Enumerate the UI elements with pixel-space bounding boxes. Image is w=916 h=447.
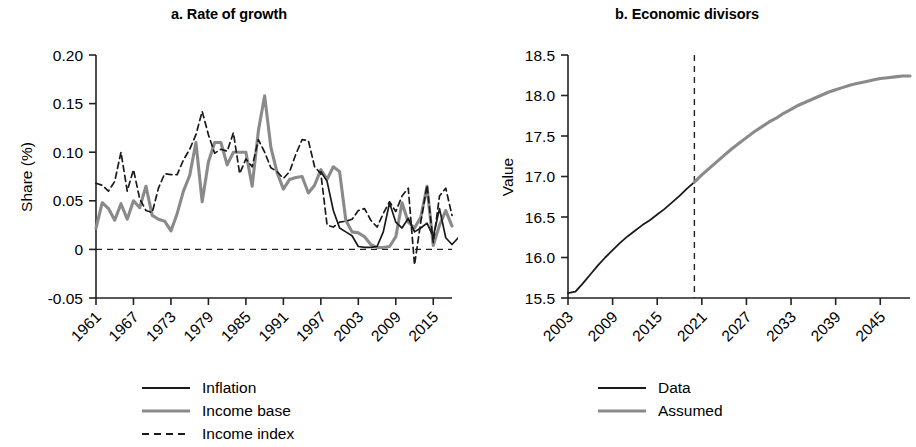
panel-a-x-tick-label: 1991 — [255, 308, 291, 344]
panel-b-y-tick-label: 15.5 — [525, 290, 555, 307]
panel-b-y-tick-label: 18.0 — [525, 87, 556, 104]
panel-a-rate-of-growth: a. Rate of growth Share (%) 0.200.150.10… — [0, 0, 458, 447]
legend-line-swatch-icon — [142, 382, 190, 394]
legend-item: Inflation — [0, 376, 458, 399]
panel-a-x-tick-label: 1967 — [105, 308, 141, 344]
panel-b-x-tick-label: 2015 — [629, 308, 665, 344]
legend-item: Data — [458, 376, 916, 399]
panel-b-y-tick-label: 17.5 — [525, 128, 555, 145]
panel-a-x-tick-label: 1979 — [180, 308, 216, 344]
legend-label: Data — [658, 379, 691, 397]
panel-b-x-tick-label: 2039 — [807, 308, 843, 344]
legend-line-swatch-icon — [598, 405, 646, 417]
legend-label: Income base — [202, 402, 291, 420]
panel-b-x-tick-label: 2027 — [718, 308, 754, 344]
panel-b-y-tick-label: 18.5 — [525, 47, 555, 64]
legend-item: Assumed — [458, 399, 916, 422]
panel-b-x-tick-label: 2009 — [584, 308, 620, 344]
panel-a-x-tick-label: 2009 — [368, 308, 404, 344]
panel-b-y-tick-label: 16.5 — [525, 209, 555, 226]
panel-a-x-tick-label: 1973 — [143, 308, 179, 344]
panel-a-x-tick-label: 2015 — [405, 308, 441, 344]
panel-a-x-tick-label: 1961 — [68, 308, 104, 344]
panel-b-legend: DataAssumed — [458, 376, 916, 422]
panel-b-x-tick-label: 2033 — [763, 308, 799, 344]
legend-label: Assumed — [658, 402, 723, 420]
legend-label: Income index — [202, 425, 294, 443]
panel-a-legend: InflationIncome baseIncome index — [0, 376, 458, 445]
legend-line-swatch-icon — [598, 382, 646, 394]
legend-label: Inflation — [202, 379, 256, 397]
panel-a-y-tick-label: 0.15 — [53, 95, 83, 112]
panel-b-y-tick-label: 17.0 — [525, 168, 556, 185]
legend-line-swatch-icon — [142, 428, 190, 440]
panel-a-y-tick-label: 0.20 — [53, 47, 84, 64]
panel-a-y-tick-label: -0.05 — [48, 290, 83, 307]
panel-a-x-tick-label: 2003 — [330, 308, 366, 344]
panel-b-economic-divisors: b. Economic divisors Value 18.518.017.51… — [458, 0, 916, 447]
panel-a-y-tick-label: 0 — [74, 241, 83, 258]
panel-a-x-tick-label: 1997 — [293, 308, 329, 344]
panel-a-y-tick-label: 0.05 — [53, 192, 83, 209]
panel-a-y-tick-label: 0.10 — [53, 144, 84, 161]
panel-b-x-tick-label: 2021 — [674, 308, 710, 344]
panel-a-x-tick-label: 1985 — [218, 308, 254, 344]
panel-b-y-tick-label: 16.0 — [525, 249, 556, 266]
panel-b-x-tick-label: 2003 — [540, 308, 576, 344]
legend-line-swatch-icon — [142, 405, 190, 417]
panel-b-series-data — [568, 182, 694, 293]
legend-item: Income base — [0, 399, 458, 422]
panel-b-x-tick-label: 2045 — [852, 308, 888, 344]
panel-a-series-income-index — [96, 111, 452, 265]
legend-item: Income index — [0, 422, 458, 445]
figure-root: a. Rate of growth Share (%) 0.200.150.10… — [0, 0, 916, 447]
panel-b-series-assumed — [694, 76, 910, 182]
